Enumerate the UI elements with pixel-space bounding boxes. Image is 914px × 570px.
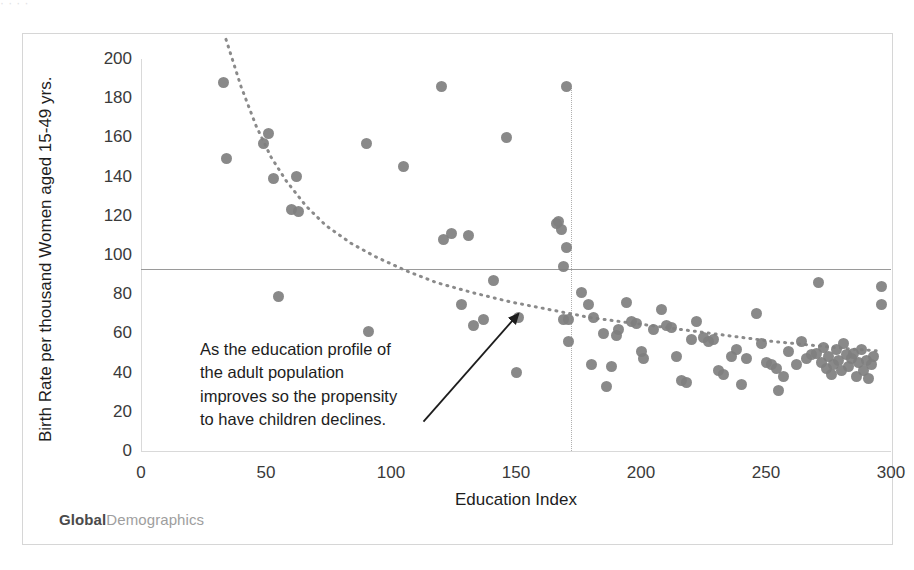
y-tick-label: 120 (104, 206, 132, 226)
chart-annotation: As the education profile of the adult po… (200, 338, 500, 432)
data-point (671, 351, 682, 362)
data-point (826, 369, 837, 380)
y-tick-label: 200 (104, 49, 132, 69)
y-tick-label: 100 (104, 245, 132, 265)
data-point (511, 367, 522, 378)
data-point (691, 316, 702, 327)
brand-secondary-text: Demographics (106, 511, 204, 528)
artifact-text: · · · · (0, 0, 29, 10)
data-point (856, 344, 867, 355)
data-point (876, 281, 887, 292)
data-point (258, 138, 269, 149)
x-tick-label: 250 (752, 463, 780, 483)
data-point (456, 299, 467, 310)
data-point (686, 334, 697, 345)
x-tick-label: 150 (502, 463, 530, 483)
data-point (446, 228, 457, 239)
horizontal-reference-line (141, 269, 891, 270)
y-tick-label: 140 (104, 167, 132, 187)
chart-figure-frame: Birth Rate per thousand Women aged 15-49… (22, 33, 893, 545)
data-point (583, 299, 594, 310)
brand-primary-text: Global (59, 511, 106, 528)
y-axis-title: Birth Rate per thousand Women aged 15-49… (33, 59, 59, 459)
data-point (868, 351, 879, 362)
data-point (463, 230, 474, 241)
y-tick-label: 160 (104, 127, 132, 147)
data-point (586, 359, 597, 370)
data-point (606, 361, 617, 372)
data-point (783, 346, 794, 357)
x-tick-label: 200 (627, 463, 655, 483)
annotation-line-2: the adult population (200, 361, 500, 384)
data-point (268, 173, 279, 184)
data-point (631, 318, 642, 329)
data-point (613, 324, 624, 335)
page-scan-artifact: · · · · (0, 0, 914, 26)
data-point (621, 297, 632, 308)
data-point (876, 299, 887, 310)
brand-watermark: GlobalDemographics (59, 511, 204, 528)
data-point (363, 326, 374, 337)
annotation-line-4: to have children declines. (200, 408, 500, 431)
data-point (478, 314, 489, 325)
data-point (561, 242, 572, 253)
data-point (488, 275, 499, 286)
data-point (681, 377, 692, 388)
data-point (736, 379, 747, 390)
data-point (601, 381, 612, 392)
vertical-reference-line (571, 88, 573, 451)
data-point (838, 338, 849, 349)
data-point (731, 344, 742, 355)
data-point (741, 353, 752, 364)
data-point (708, 334, 719, 345)
data-point (561, 81, 572, 92)
data-point (291, 171, 302, 182)
data-point (666, 322, 677, 333)
data-point (263, 128, 274, 139)
data-point (361, 138, 372, 149)
data-point (468, 320, 479, 331)
data-point (773, 385, 784, 396)
data-point (863, 373, 874, 384)
data-point (751, 308, 762, 319)
data-point (218, 77, 229, 88)
y-axis-line (141, 59, 142, 451)
x-axis-line (141, 451, 891, 452)
y-tick-label: 40 (113, 363, 132, 383)
data-point (778, 371, 789, 382)
data-point (273, 291, 284, 302)
x-tick-label: 50 (257, 463, 276, 483)
x-axis-title: Education Index (141, 490, 891, 510)
y-tick-label: 60 (113, 323, 132, 343)
data-point (556, 224, 567, 235)
data-point (656, 304, 667, 315)
y-tick-label: 20 (113, 402, 132, 422)
x-tick-label: 0 (136, 463, 145, 483)
data-point (813, 277, 824, 288)
data-point (436, 81, 447, 92)
x-tick-label: 100 (377, 463, 405, 483)
annotation-line-1: As the education profile of (200, 338, 500, 361)
data-point (398, 161, 409, 172)
data-point (501, 132, 512, 143)
annotation-line-3: improves so the propensity (200, 385, 500, 408)
data-point (791, 359, 802, 370)
y-tick-label: 180 (104, 88, 132, 108)
data-point (588, 312, 599, 323)
data-point (756, 338, 767, 349)
y-tick-label: 0 (123, 441, 132, 461)
data-point (598, 328, 609, 339)
data-point (563, 336, 574, 347)
data-point (638, 353, 649, 364)
data-point (718, 369, 729, 380)
data-point (221, 153, 232, 164)
data-point (558, 261, 569, 272)
x-tick-label: 300 (877, 463, 905, 483)
y-tick-label: 80 (113, 284, 132, 304)
data-point (513, 312, 524, 323)
data-point (576, 287, 587, 298)
data-point (796, 336, 807, 347)
data-point (293, 206, 304, 217)
data-point (648, 324, 659, 335)
